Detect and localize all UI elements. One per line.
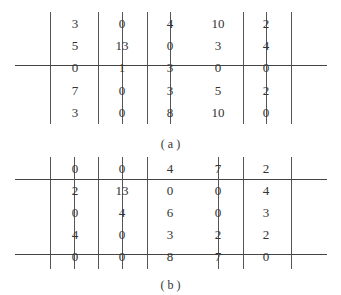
matrix-cell: 3 [155, 228, 185, 242]
matrix-cell: 3 [155, 84, 185, 98]
matrix-cell: 4 [155, 162, 185, 176]
matrix-cell: 7 [203, 250, 233, 264]
matrix-cell: 3 [60, 106, 90, 120]
matrix-cell: 4 [107, 206, 137, 220]
separator-line [147, 12, 148, 124]
matrix-cell: 0 [60, 250, 90, 264]
matrix-cell: 1 [107, 61, 137, 75]
matrix-cell: 10 [203, 17, 233, 31]
figure-caption: ( b ) [0, 278, 341, 293]
matrix-cell: 2 [60, 184, 90, 198]
matrix-cell: 0 [107, 228, 137, 242]
matrix-cell: 0 [60, 206, 90, 220]
matrix-cell: 0 [107, 17, 137, 31]
matrix-cell: 0 [60, 162, 90, 176]
matrix-cell: 2 [251, 228, 281, 242]
matrix-cell: 4 [60, 228, 90, 242]
matrix-cell: 6 [155, 206, 185, 220]
matrix-cell: 3 [251, 206, 281, 220]
matrix-cell: 7 [203, 162, 233, 176]
separator-line [98, 12, 99, 124]
row-cover-line [15, 179, 327, 180]
matrix-cell: 0 [251, 106, 281, 120]
matrix-cell: 4 [155, 17, 185, 31]
matrix-cell: 4 [251, 39, 281, 53]
separator-line [50, 157, 51, 269]
matrix-cell: 13 [107, 39, 137, 53]
figure-b: 0 0 4 7 2 2 13 0 0 4 0 4 6 0 3 4 0 3 2 2… [0, 145, 341, 295]
separator-line [291, 12, 292, 124]
matrix-cell: 0 [107, 162, 137, 176]
matrix-cell: 7 [60, 84, 90, 98]
matrix-cell: 8 [155, 250, 185, 264]
matrix-cell: 0 [60, 61, 90, 75]
matrix-cell: 0 [107, 106, 137, 120]
separator-line [291, 157, 292, 269]
matrix-cell: 2 [251, 17, 281, 31]
matrix-cell: 0 [203, 206, 233, 220]
matrix-cell: 2 [203, 228, 233, 242]
figure-a: 3 0 4 10 2 5 13 0 3 4 0 1 3 0 0 7 0 3 5 … [0, 0, 341, 148]
matrix-cell: 5 [203, 84, 233, 98]
separator-line [243, 12, 244, 124]
matrix-cell: 0 [107, 84, 137, 98]
matrix-cell: 2 [251, 162, 281, 176]
matrix-cell: 8 [155, 106, 185, 120]
matrix-cell: 0 [155, 39, 185, 53]
separator-line [98, 157, 99, 269]
matrix-cell: 5 [60, 39, 90, 53]
separator-line [50, 12, 51, 124]
matrix-cell: 3 [203, 39, 233, 53]
matrix-cell: 0 [203, 61, 233, 75]
separator-line [147, 157, 148, 269]
separator-line [243, 157, 244, 269]
matrix-cell: 3 [60, 17, 90, 31]
matrix-cell: 13 [107, 184, 137, 198]
matrix-cell: 0 [251, 250, 281, 264]
matrix-cell: 0 [107, 250, 137, 264]
matrix-cell: 4 [251, 184, 281, 198]
matrix-cell: 3 [155, 61, 185, 75]
matrix-cell: 0 [251, 61, 281, 75]
matrix-cell: 2 [251, 84, 281, 98]
matrix-cell: 0 [155, 184, 185, 198]
matrix-cell: 0 [203, 184, 233, 198]
matrix-cell: 10 [203, 106, 233, 120]
